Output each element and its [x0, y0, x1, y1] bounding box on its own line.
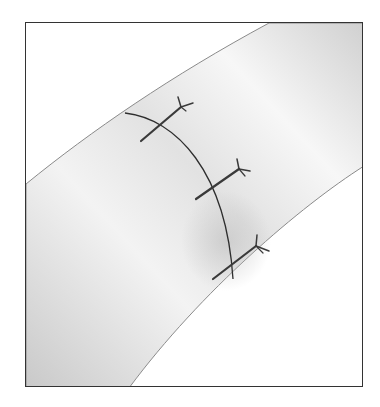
vessel-shading — [181, 191, 271, 291]
illustration-frame — [25, 22, 363, 387]
vessel-anastomosis-illustration — [26, 23, 363, 387]
vessel-body — [26, 23, 363, 387]
